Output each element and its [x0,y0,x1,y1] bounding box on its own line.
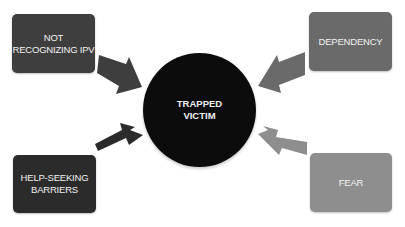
center-node-trapped-victim: TRAPPED VICTIM [143,53,256,167]
factor-label: FEAR [339,177,364,189]
factor-label: NOT RECOGNIZING IPV [13,32,95,56]
arrow-fear [258,126,307,155]
factor-box-dependency: DEPENDENCY [309,12,392,71]
factor-box-help-seeking-barriers: HELP-SEEKING BARRIERS [13,155,96,213]
factor-box-fear: FEAR [310,153,392,212]
factor-box-not-recognizing-ipv: NOT RECOGNIZING IPV [12,14,95,73]
factor-label: HELP-SEEKING BARRIERS [21,172,89,196]
arrow-dependency [258,52,305,93]
arrow-not-recognizing-ipv [97,55,142,94]
arrow-help-seeking-barriers [95,123,143,151]
factor-label: DEPENDENCY [319,36,383,48]
center-label: TRAPPED VICTIM [177,98,222,122]
